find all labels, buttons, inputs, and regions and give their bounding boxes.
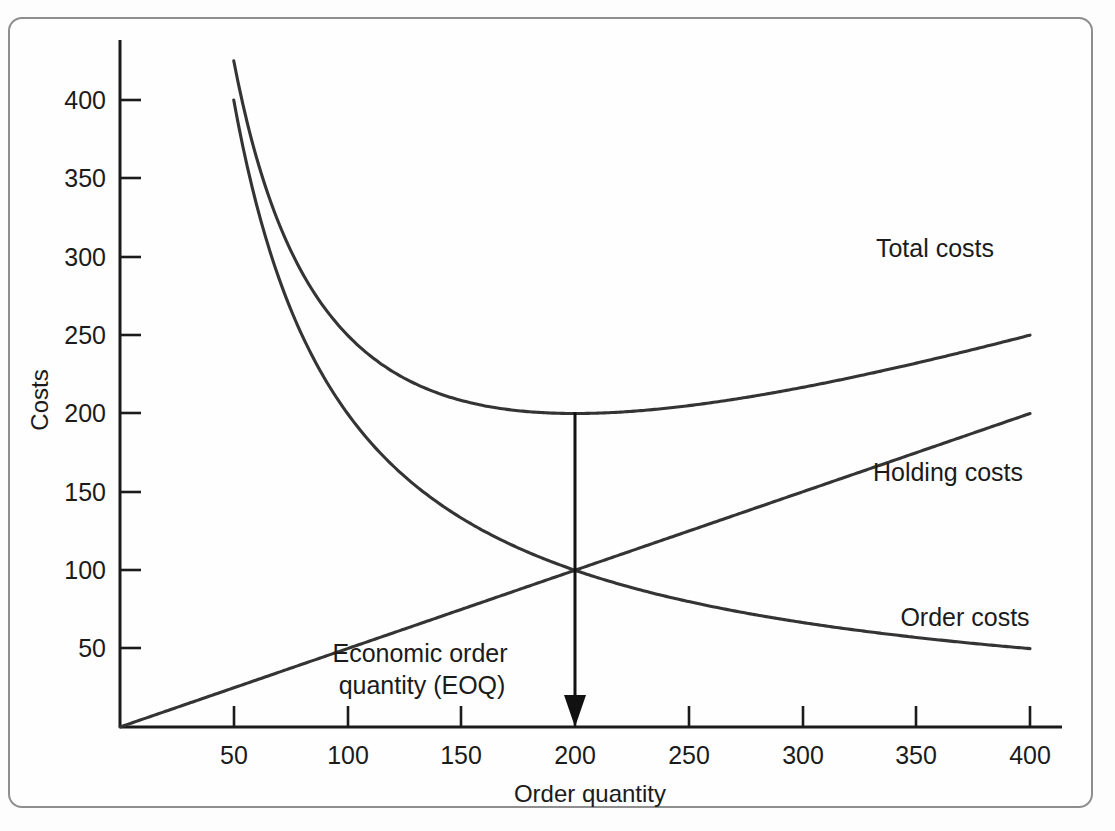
eoq-plot-canvas: 400 350 300 250 200 150 100 50 50 100 15… bbox=[0, 0, 1115, 831]
x-tick-label-300: 300 bbox=[782, 741, 824, 769]
x-tick-label-250: 250 bbox=[668, 741, 710, 769]
series-label-order-costs: Order costs bbox=[900, 603, 1029, 631]
x-axis-title: Order quantity bbox=[514, 780, 666, 807]
eoq-chart-figure: 400 350 300 250 200 150 100 50 50 100 15… bbox=[0, 0, 1115, 831]
y-tick-label-400: 400 bbox=[64, 86, 106, 114]
x-tick-marks bbox=[234, 706, 1030, 727]
y-tick-label-200: 200 bbox=[64, 399, 106, 427]
y-tick-label-300: 300 bbox=[64, 243, 106, 271]
series-label-holding-costs: Holding costs bbox=[873, 458, 1023, 486]
y-tick-label-250: 250 bbox=[64, 321, 106, 349]
y-tick-label-150: 150 bbox=[64, 478, 106, 506]
eoq-annotation-line2: quantity (EOQ) bbox=[339, 671, 506, 699]
x-tick-label-100: 100 bbox=[327, 741, 369, 769]
y-tick-label-350: 350 bbox=[64, 164, 106, 192]
x-tick-label-400: 400 bbox=[1009, 741, 1051, 769]
series-label-total-costs: Total costs bbox=[876, 234, 994, 262]
y-axis-title: Costs bbox=[26, 369, 53, 430]
x-tick-label-50: 50 bbox=[220, 741, 248, 769]
x-tick-label-350: 350 bbox=[895, 741, 937, 769]
eoq-annotation-line1: Economic order bbox=[332, 639, 507, 667]
y-tick-label-50: 50 bbox=[78, 634, 106, 662]
order-costs-curve bbox=[234, 100, 1030, 649]
x-tick-label-150: 150 bbox=[440, 741, 482, 769]
y-tick-labels: 400 350 300 250 200 150 100 50 bbox=[64, 86, 106, 662]
x-tick-labels: 50 100 150 200 250 300 350 400 bbox=[220, 741, 1051, 769]
y-tick-label-100: 100 bbox=[64, 556, 106, 584]
eoq-arrow-head bbox=[564, 695, 586, 727]
y-tick-marks bbox=[120, 100, 141, 648]
x-tick-label-200: 200 bbox=[554, 741, 596, 769]
eoq-arrow bbox=[564, 412, 586, 727]
